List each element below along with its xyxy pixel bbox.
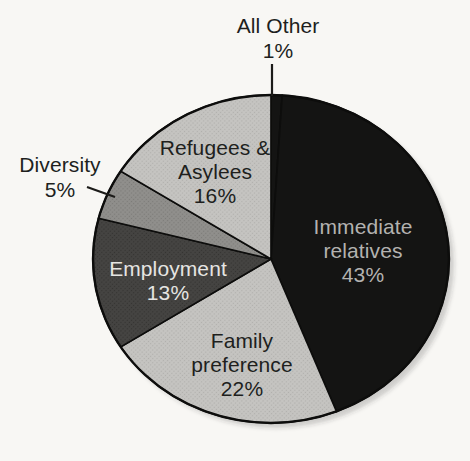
slice-percent: 5%	[10, 177, 110, 202]
slice-percent: 16%	[156, 184, 274, 208]
slice-label-all-other: All Other 1%	[223, 13, 333, 63]
slice-name: Family preference	[186, 329, 298, 377]
slice-name: Employment	[98, 257, 238, 281]
slice-percent: 1%	[223, 38, 333, 63]
slice-label-employment: Employment 13%	[98, 257, 238, 305]
slice-label-family-preference: Family preference 22%	[186, 329, 298, 401]
slice-label-immediate-relatives: Immediate relatives 43%	[300, 215, 426, 287]
slice-name: Immediate relatives	[300, 215, 426, 263]
slice-name: All Other	[223, 13, 333, 38]
slice-percent: 43%	[300, 263, 426, 287]
slice-name: Diversity	[10, 152, 110, 177]
slice-label-diversity: Diversity 5%	[10, 152, 110, 202]
slice-name: Refugees & Asylees	[156, 136, 274, 184]
slice-percent: 13%	[98, 281, 238, 305]
slice-label-refugees-asylees: Refugees & Asylees 16%	[156, 136, 274, 208]
pie-chart-figure: All Other 1% Diversity 5% Refugees & Asy…	[0, 0, 470, 461]
slice-percent: 22%	[186, 377, 298, 401]
